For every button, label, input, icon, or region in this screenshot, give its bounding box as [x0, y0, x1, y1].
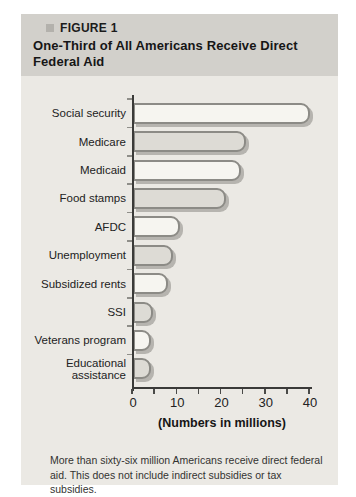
bar-row: SSI	[21, 298, 338, 326]
category-label: AFDC	[21, 221, 133, 233]
bar	[133, 358, 151, 379]
x-axis-tick	[308, 389, 310, 394]
y-axis-tick	[127, 240, 132, 242]
bar	[133, 103, 310, 124]
bar-track	[133, 103, 338, 124]
category-label: Veterans program	[21, 334, 133, 346]
bar-track	[133, 330, 338, 351]
x-axis-tick-label: 40	[303, 395, 317, 410]
y-axis-tick	[127, 183, 132, 185]
chart-rows: Social securityMedicareMedicaidFood stam…	[21, 99, 338, 383]
figure-label-row: FIGURE 1	[46, 21, 326, 35]
x-axis-tick	[242, 389, 244, 394]
bar-row: Subsidized rents	[21, 270, 338, 298]
bar-track	[133, 302, 338, 323]
bar	[133, 131, 246, 152]
x-axis-tick	[131, 389, 133, 394]
x-axis-title: (Numbers in millions)	[132, 416, 312, 430]
bar-row: Medicare	[21, 128, 338, 156]
x-axis-tick	[153, 389, 155, 394]
bar	[133, 188, 226, 209]
x-axis-line	[132, 387, 312, 389]
y-axis-tick	[127, 297, 132, 299]
x-axis-tick-label: 10	[170, 395, 184, 410]
y-axis-line	[132, 95, 134, 391]
figure-header: FIGURE 1 One-Third of All Americans Rece…	[21, 14, 338, 76]
bar-row: Food stamps	[21, 184, 338, 212]
y-axis-tick	[127, 354, 132, 356]
bar-track	[133, 245, 338, 266]
figure-title: One-Third of All Americans Receive Direc…	[33, 38, 326, 70]
category-label: Food stamps	[21, 192, 133, 204]
figure-label: FIGURE 1	[60, 21, 118, 35]
category-label: Unemployment	[21, 249, 133, 261]
x-axis-tick-label: 30	[259, 395, 273, 410]
x-axis-tick	[198, 389, 200, 394]
x-axis-tick	[286, 389, 288, 394]
bar-chart: Social securityMedicareMedicaidFood stam…	[21, 99, 338, 439]
y-axis-tick	[127, 127, 132, 129]
x-axis-tick-label: 0	[129, 395, 136, 410]
x-axis-tick	[264, 389, 266, 394]
figure-caption: More than sixty-six million Americans re…	[50, 453, 330, 496]
y-axis-tick	[127, 98, 132, 100]
bar	[133, 273, 168, 294]
figure-panel: FIGURE 1 One-Third of All Americans Rece…	[21, 14, 338, 485]
bar-row: Social security	[21, 99, 338, 127]
bar	[133, 302, 153, 323]
category-label: Medicare	[21, 136, 133, 148]
bar-row: AFDC	[21, 213, 338, 241]
category-label: SSI	[21, 306, 133, 318]
bar-track	[133, 131, 338, 152]
bar-track	[133, 358, 338, 379]
page: FIGURE 1 One-Third of All Americans Rece…	[0, 0, 356, 497]
bar	[133, 160, 241, 181]
bar-track	[133, 160, 338, 181]
bar-row: Unemployment	[21, 241, 338, 269]
bar	[133, 216, 180, 237]
y-axis-tick	[127, 212, 132, 214]
bar	[133, 330, 151, 351]
x-axis-tick	[176, 389, 178, 394]
figure-bullet-icon	[46, 24, 54, 32]
x-axis-tick-label: 20	[214, 395, 228, 410]
bar	[133, 245, 173, 266]
y-axis-tick	[127, 155, 132, 157]
category-label: Medicaid	[21, 164, 133, 176]
x-axis-tick	[220, 389, 222, 394]
bar-track	[133, 188, 338, 209]
y-axis-tick	[127, 269, 132, 271]
bar-row: Educational assistance	[21, 355, 338, 383]
category-label: Educational assistance	[21, 357, 133, 382]
bar-track	[133, 273, 338, 294]
category-label: Social security	[21, 107, 133, 119]
bar-row: Medicaid	[21, 156, 338, 184]
category-label: Subsidized rents	[21, 278, 133, 290]
y-axis-tick	[127, 325, 132, 327]
bar-track	[133, 216, 338, 237]
bar-row: Veterans program	[21, 326, 338, 354]
